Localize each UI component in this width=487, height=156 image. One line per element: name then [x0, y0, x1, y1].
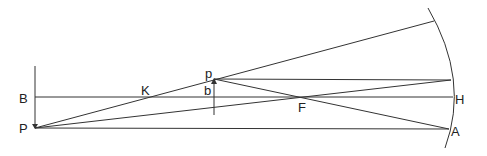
ray-P-to-A — [35, 128, 449, 129]
label-A: A — [451, 124, 460, 139]
label-F: F — [298, 100, 306, 115]
ray-P-through-K-p — [35, 21, 434, 128]
label-P: P — [19, 121, 28, 136]
label-b: b — [204, 83, 211, 98]
label-H: H — [455, 92, 464, 107]
label-p: p — [205, 66, 212, 81]
ray-P-through-F — [35, 80, 451, 128]
ray-p-through-F-to-A — [214, 79, 449, 129]
label-K: K — [141, 83, 150, 98]
label-B: B — [19, 91, 28, 106]
ray-p-parallel — [214, 79, 451, 80]
ray-diagram: B P K p b F H A — [0, 0, 487, 156]
